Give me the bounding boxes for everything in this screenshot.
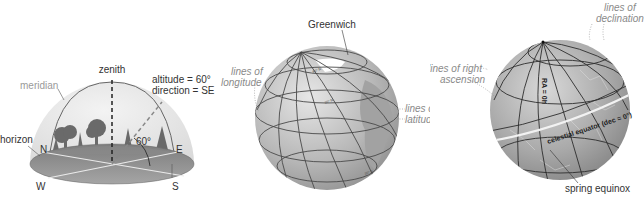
- spring-equinox-label: spring equinox: [565, 183, 630, 194]
- north-label: N: [40, 144, 47, 155]
- ra-zero-label: RA = 0h: [541, 78, 548, 104]
- horizon-dome-diagram: zenith meridian altitude = 60° direction…: [0, 0, 215, 198]
- declination-label-line2: declination: [596, 13, 644, 24]
- declination-label-line1: lines of: [604, 2, 637, 13]
- latitude-label-line2: latitude: [405, 114, 430, 125]
- meridian-label: meridian: [20, 80, 58, 91]
- longitude-label-line1: lines of: [231, 66, 264, 77]
- celestial-sphere-diagram: RA = 0h celestial equator (dec = 0°) lin…: [430, 0, 644, 198]
- direction-label: direction = SE: [152, 85, 215, 96]
- south-label: S: [172, 181, 179, 192]
- east-label: E: [176, 144, 183, 155]
- celestial-sphere-panel: RA = 0h celestial equator (dec = 0°) lin…: [430, 0, 644, 198]
- zenith-label: zenith: [99, 64, 126, 75]
- earth-globe-diagram: 90° N 30° N 30° S Greenwich lines of lon…: [215, 0, 430, 198]
- angle-label: 60°: [136, 136, 151, 147]
- right-ascension-label-line2: ascension: [440, 74, 485, 85]
- terrestrial-globe-panel: 90° N 30° N 30° S Greenwich lines of lon…: [215, 0, 430, 198]
- celestial-pole: [542, 41, 545, 44]
- altitude-label: altitude = 60°: [152, 74, 211, 85]
- longitude-label-line2: longitude: [221, 77, 262, 88]
- west-label: W: [36, 181, 46, 192]
- latitude-label-line1: lines of: [405, 103, 430, 114]
- right-ascension-label-line1: lines of right: [430, 63, 483, 74]
- horizon-diagram-panel: zenith meridian altitude = 60° direction…: [0, 0, 215, 198]
- horizon-label: horizon: [0, 134, 33, 145]
- celestial-sphere: [490, 40, 630, 180]
- greenwich-label: Greenwich: [308, 19, 356, 30]
